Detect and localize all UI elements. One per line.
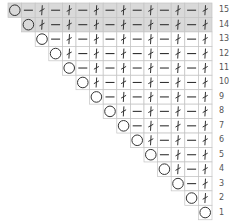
chart-cell <box>158 90 172 104</box>
chart-cell <box>35 17 49 31</box>
chart-cell <box>76 46 90 60</box>
row-number: 15 <box>219 5 229 15</box>
chart-cell <box>185 162 199 176</box>
chart-row-3 <box>171 176 212 190</box>
chart-cell <box>117 75 131 89</box>
chart-cell <box>76 32 90 46</box>
chart-cell <box>185 176 199 190</box>
chart-cell <box>103 104 117 118</box>
chart-row-6 <box>130 133 212 147</box>
chart-row-10 <box>76 75 212 89</box>
chart-row-5 <box>144 148 212 162</box>
chart-cell <box>130 46 144 60</box>
row-number: 12 <box>219 49 229 59</box>
chart-cell <box>158 17 172 31</box>
chart-row-13 <box>35 32 212 46</box>
chart-cell <box>90 90 104 104</box>
knitting-chart <box>0 0 235 223</box>
chart-cell <box>171 176 185 190</box>
chart-cell <box>198 46 212 60</box>
chart-cell <box>130 104 144 118</box>
chart-cell <box>130 119 144 133</box>
chart-cell <box>158 162 172 176</box>
chart-row-14 <box>22 17 212 31</box>
chart-row-1 <box>198 205 212 219</box>
chart-cell <box>185 104 199 118</box>
chart-cell <box>171 104 185 118</box>
chart-cell <box>62 46 76 60</box>
chart-cell <box>185 46 199 60</box>
chart-cell <box>90 75 104 89</box>
chart-cell <box>185 61 199 75</box>
row-number: 7 <box>219 121 224 131</box>
chart-cell <box>62 32 76 46</box>
chart-cell <box>185 75 199 89</box>
chart-cell <box>171 17 185 31</box>
chart-cell <box>49 32 63 46</box>
chart-cell <box>198 17 212 31</box>
chart-cell <box>185 90 199 104</box>
chart-cell <box>198 61 212 75</box>
chart-cell <box>49 17 63 31</box>
row-number: 8 <box>219 106 224 116</box>
row-number: 14 <box>219 20 229 30</box>
chart-cell <box>90 46 104 60</box>
chart-cell <box>76 61 90 75</box>
chart-cell <box>130 90 144 104</box>
chart-cell <box>117 17 131 31</box>
chart-cell <box>185 17 199 31</box>
chart-cell <box>158 75 172 89</box>
chart-cell <box>35 3 49 17</box>
chart-cell <box>130 61 144 75</box>
chart-cell <box>185 119 199 133</box>
chart-cell <box>198 104 212 118</box>
chart-cell <box>158 104 172 118</box>
chart-row-9 <box>90 90 212 104</box>
chart-cell <box>130 3 144 17</box>
row-number: 11 <box>219 63 229 73</box>
chart-row-12 <box>49 46 212 60</box>
chart-row-11 <box>62 61 212 75</box>
row-number: 13 <box>219 34 229 44</box>
chart-cell <box>158 61 172 75</box>
chart-cell <box>130 32 144 46</box>
chart-cell <box>158 148 172 162</box>
chart-cell <box>117 119 131 133</box>
chart-row-8 <box>103 104 212 118</box>
chart-cell <box>158 32 172 46</box>
chart-cell <box>117 61 131 75</box>
chart-cell <box>35 32 49 46</box>
chart-cell <box>171 119 185 133</box>
chart-cell <box>171 90 185 104</box>
chart-cell <box>198 162 212 176</box>
chart-row-4 <box>158 162 212 176</box>
row-number: 9 <box>219 92 224 102</box>
row-number: 6 <box>219 135 224 145</box>
row-number: 10 <box>219 77 229 87</box>
chart-cell <box>103 32 117 46</box>
row-number: 1 <box>219 208 224 218</box>
chart-cell <box>171 3 185 17</box>
chart-cell <box>198 32 212 46</box>
chart-cell <box>198 205 212 219</box>
chart-cell <box>185 133 199 147</box>
chart-cell <box>198 90 212 104</box>
chart-cell <box>144 32 158 46</box>
chart-cell <box>49 46 63 60</box>
chart-cell <box>171 32 185 46</box>
chart-cell <box>103 90 117 104</box>
chart-cell <box>144 104 158 118</box>
chart-row-7 <box>117 119 212 133</box>
chart-cell <box>171 148 185 162</box>
chart-cell <box>198 75 212 89</box>
chart-cell <box>103 3 117 17</box>
chart-cell <box>198 133 212 147</box>
chart-cell <box>103 75 117 89</box>
chart-cell <box>22 17 36 31</box>
chart-cell <box>117 32 131 46</box>
chart-cell <box>8 3 22 17</box>
chart-cell <box>117 90 131 104</box>
chart-cell <box>144 119 158 133</box>
chart-cell <box>198 191 212 205</box>
chart-cell <box>103 61 117 75</box>
